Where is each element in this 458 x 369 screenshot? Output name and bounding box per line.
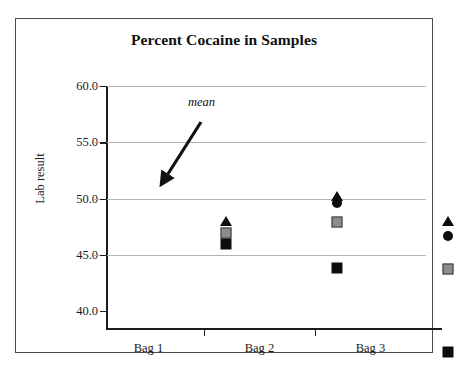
data-point-square-mean — [442, 263, 453, 274]
gridline — [93, 86, 426, 87]
plot-area — [93, 86, 426, 311]
y-axis-title: Lab result — [33, 119, 48, 239]
x-axis-tick-mark — [315, 329, 316, 336]
data-point-triangle — [220, 216, 232, 226]
y-axis-tick-labels: 60.055.050.045.040.0 — [46, 19, 98, 369]
y-axis-tick-mark — [100, 86, 107, 87]
x-axis-tick-label: Bag 2 — [215, 341, 305, 356]
figure-frame: Percent Cocaine in Samples 60.055.050.04… — [15, 18, 433, 353]
data-point-circle — [332, 198, 342, 208]
data-point-square — [331, 262, 342, 273]
data-point-square-mean — [220, 227, 231, 238]
x-axis-tick-label: Bag 1 — [104, 341, 194, 356]
y-axis-tick-mark — [100, 311, 107, 312]
data-point-square — [220, 239, 231, 250]
data-point-square — [442, 347, 453, 358]
y-axis-tick-label: 50.0 — [52, 191, 98, 206]
x-axis-line — [106, 328, 442, 330]
x-axis-tick-mark — [204, 329, 205, 336]
y-axis-tick-label: 40.0 — [52, 304, 98, 319]
x-axis-tick-label: Bag 3 — [326, 341, 416, 356]
gridline — [93, 199, 426, 200]
y-axis-tick-label: 60.0 — [52, 79, 98, 94]
gridline — [93, 142, 426, 143]
data-point-square-mean — [331, 216, 342, 227]
data-point-triangle — [442, 216, 454, 226]
y-axis-tick-mark — [100, 255, 107, 256]
data-point-circle — [443, 231, 453, 241]
mean-annotation-label: mean — [188, 95, 215, 110]
y-axis-tick-mark — [100, 199, 107, 200]
y-axis-tick-mark — [100, 142, 107, 143]
y-axis-tick-label: 45.0 — [52, 247, 98, 262]
gridline — [93, 255, 426, 256]
y-axis-tick-label: 55.0 — [52, 135, 98, 150]
